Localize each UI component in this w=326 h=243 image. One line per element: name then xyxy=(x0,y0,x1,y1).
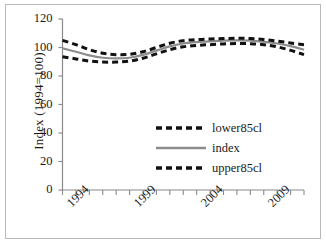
series-line-lower85cl xyxy=(63,43,305,62)
y-tick-label: 0 xyxy=(25,182,53,197)
y-tick-label: 20 xyxy=(25,154,53,169)
x-axis-ticks xyxy=(63,190,305,195)
series-line-index xyxy=(63,40,305,58)
y-tick-label: 120 xyxy=(25,11,53,26)
legend-label: index xyxy=(212,142,240,155)
y-tick-label: 100 xyxy=(25,40,53,55)
data-series-group xyxy=(63,38,305,62)
legend-label: upper85cl xyxy=(212,162,262,175)
y-tick-label: 60 xyxy=(25,97,53,112)
chart-legend: lower85clindexupper85cl xyxy=(155,118,262,178)
legend-swatch-upper85cl xyxy=(155,163,207,173)
chart-figure: Index (1994=100) 020406080100120 1994199… xyxy=(0,0,326,243)
legend-swatch-index xyxy=(155,143,207,153)
legend-item-index: index xyxy=(155,138,262,158)
y-tick-label: 80 xyxy=(25,68,53,83)
legend-item-upper85cl: upper85cl xyxy=(155,158,262,178)
legend-swatch-lower85cl xyxy=(155,123,207,133)
legend-label: lower85cl xyxy=(212,122,262,135)
legend-item-lower85cl: lower85cl xyxy=(155,118,262,138)
y-tick-label: 40 xyxy=(25,125,53,140)
